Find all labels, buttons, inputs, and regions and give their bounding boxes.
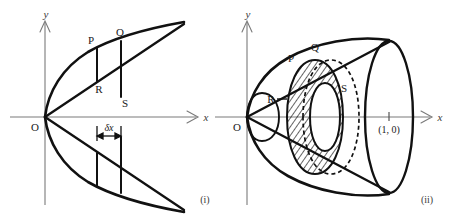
label-R-panel-ii: R [267,93,275,105]
label-S-panel-ii: S [341,82,347,94]
label-P-panel-ii: P [288,52,294,64]
label-delta-x-panel-i: δx [104,122,114,133]
x-axis-label-panel-ii: x [437,111,443,123]
origin-label-panel-i: O [31,121,39,133]
label-point-one-zero-panel-ii: (1, 0) [378,124,400,136]
label-Q-panel-i: Q [116,26,124,38]
caption-panel-i: (i) [200,194,209,206]
label-Q-panel-ii: Q [311,41,319,53]
label-S-panel-i: S [122,97,128,109]
y-axis-label-panel-ii: y [245,8,251,20]
origin-label-panel-ii: O [233,121,241,133]
panel-i: P Q R S δx y x O (i) [10,8,210,212]
panel-ii: P Q R S (1, 0) y x O (ii) [215,8,443,206]
geometry-figure: P Q R S δx y x O (i) [0,0,468,224]
label-R-panel-i: R [95,83,103,95]
y-axis-label-panel-i: y [43,8,49,20]
x-axis-label-panel-i: x [203,111,209,123]
label-P-panel-i: P [88,34,94,46]
caption-panel-ii: (ii) [421,194,433,206]
figure-container: P Q R S δx y x O (i) [0,0,468,224]
